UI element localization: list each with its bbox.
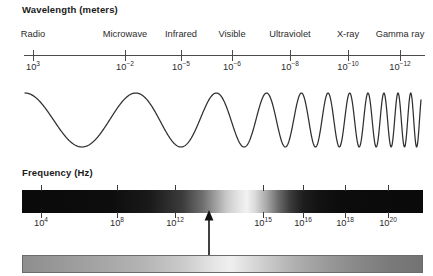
frequency-tick-label: 108 <box>110 218 124 228</box>
wavelength-tick-label: 10−6 <box>223 62 241 72</box>
wavelength-band-label: X-ray <box>337 29 359 39</box>
visible-light-arrow-icon <box>203 210 215 258</box>
frequency-tick <box>117 185 118 191</box>
wavelength-tick-label: 10−8 <box>281 62 299 72</box>
wavelength-tick-label: 10−2 <box>116 62 134 72</box>
electromagnetic-spectrum-figure: Wavelength (meters) RadioMicrowaveInfrar… <box>0 0 433 276</box>
wavelength-tick-label: 103 <box>26 62 40 72</box>
frequency-tick-label: 1012 <box>166 218 184 228</box>
wavelength-heading: Wavelength (meters) <box>22 4 118 15</box>
wavelength-band-label: Gamma ray <box>376 29 425 39</box>
frequency-tick <box>263 185 264 191</box>
wavelength-band-label: Visible <box>218 29 245 39</box>
wavelength-tick-label: 10−5 <box>172 62 190 72</box>
frequency-tick-label: 1018 <box>336 218 354 228</box>
visible-light-bar <box>22 255 423 273</box>
frequency-heading: Frequency (Hz) <box>22 167 93 178</box>
wavelength-axis-line <box>24 55 425 56</box>
frequency-tick-label: 1020 <box>379 218 397 228</box>
sine-wave-graphic <box>0 84 433 156</box>
wavelength-tick <box>33 50 34 61</box>
spectrum-bar <box>22 190 423 213</box>
wavelength-band-label: Microwave <box>103 29 147 39</box>
wavelength-band-label: Ultraviolet <box>269 29 310 39</box>
wave-illustration <box>0 84 433 156</box>
frequency-tick-label: 104 <box>34 218 48 228</box>
wavelength-band-label: Infrared <box>165 29 197 39</box>
wavelength-band-label: Radio <box>21 29 45 39</box>
frequency-tick <box>41 185 42 191</box>
frequency-tick <box>175 185 176 191</box>
wavelength-tick-label: 10−10 <box>337 62 359 72</box>
frequency-axis: 10410810121015101610181020 <box>0 182 433 238</box>
frequency-tick-label: 1016 <box>294 218 312 228</box>
frequency-tick <box>303 185 304 191</box>
frequency-tick <box>388 185 389 191</box>
wavelength-tick-label: 10−12 <box>389 62 411 72</box>
frequency-tick <box>345 185 346 191</box>
wavelength-axis: RadioMicrowaveInfraredVisibleUltraviolet… <box>0 24 433 72</box>
frequency-tick-label: 1015 <box>254 218 272 228</box>
